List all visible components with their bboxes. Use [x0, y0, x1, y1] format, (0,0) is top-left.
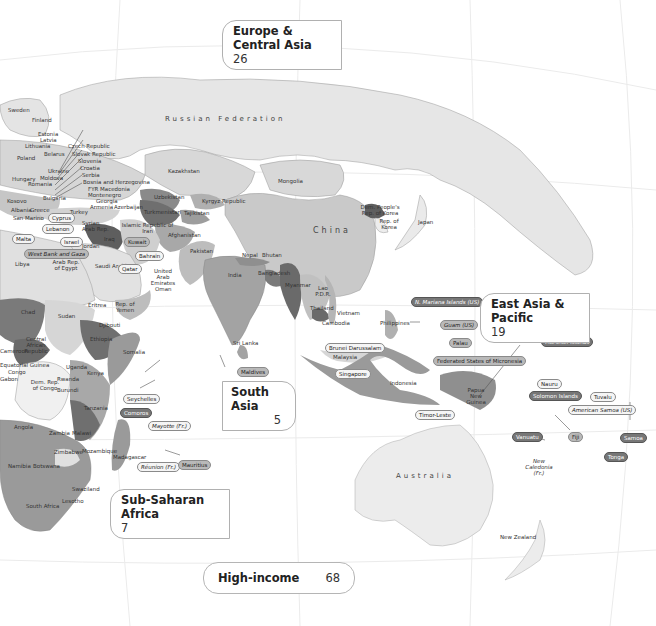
label-zimbabwe: Zimbabwe	[54, 449, 83, 455]
region-south-asia[interactable]: South Asia 5	[222, 381, 296, 431]
label-ukraine: Ukraine	[48, 168, 69, 174]
label-oman: Oman	[155, 286, 172, 292]
region-sub-saharan-africa[interactable]: Sub-Saharan Africa 7	[110, 489, 230, 539]
callout-kuwait[interactable]: Kuwait	[124, 237, 150, 247]
label-serbia: Serbia	[82, 172, 100, 178]
label-mongolia: Mongolia	[278, 178, 303, 184]
label-mozambique: Mozambique	[82, 448, 117, 454]
callout-americansamoa[interactable]: American Samoa (US)	[568, 405, 636, 415]
label-russia: Russian Federation	[165, 116, 285, 124]
callout-tuvalu[interactable]: Tuvalu	[590, 392, 616, 402]
callout-maldives[interactable]: Maldives	[237, 367, 269, 377]
callout-mayotte[interactable]: Mayotte (Fr.)	[148, 421, 191, 431]
label-newcaledonia: New Caledonia (Fr.)	[522, 458, 556, 476]
srilanka-shape	[237, 345, 248, 359]
label-pakistan: Pakistan	[190, 248, 213, 254]
callout-lebanon[interactable]: Lebanon	[42, 224, 74, 234]
callout-israel[interactable]: Israel	[60, 237, 83, 247]
callout-comoros[interactable]: Comoros	[120, 408, 152, 418]
region-name: Europe & Central Asia	[233, 24, 333, 52]
label-slovenia: Slovenia	[78, 158, 101, 164]
label-armenia: Armenia	[90, 204, 113, 210]
label-ethiopia: Ethiopia	[90, 336, 112, 342]
madagascar-shape	[112, 419, 131, 470]
label-lesotho: Lesotho	[62, 498, 84, 504]
label-thailand: Thailand	[310, 305, 334, 311]
label-slovak: Slovak Republic	[72, 151, 115, 157]
region-name: East Asia & Pacific	[491, 297, 581, 325]
label-bulgaria: Bulgaria	[43, 195, 66, 201]
label-romania: Romania	[28, 181, 52, 187]
label-congo: Congo	[8, 369, 26, 375]
label-india: India	[228, 272, 242, 278]
callout-tonga[interactable]: Tonga	[604, 452, 628, 462]
callout-timorleste[interactable]: Timor-Leste	[415, 410, 455, 420]
label-namibia: Namibia	[8, 463, 31, 469]
region-count: 26	[233, 52, 333, 66]
india-shape	[203, 256, 266, 345]
callout-micronesia[interactable]: Federated States of Micronesia	[433, 356, 526, 366]
high-income-pill[interactable]: High-income 68	[203, 562, 355, 594]
label-vietnam: Vietnam	[337, 310, 360, 316]
label-philippines: Philippines	[380, 320, 410, 326]
callout-solomon[interactable]: Solomon Islands	[529, 391, 582, 401]
label-angola: Angola	[14, 424, 33, 430]
callout-samoa[interactable]: Samoa	[620, 433, 647, 443]
label-belarus: Belarus	[44, 151, 65, 157]
label-poland: Poland	[17, 155, 35, 161]
label-somalia: Somalia	[123, 349, 145, 355]
label-czech: Czech Republic	[68, 143, 110, 149]
callout-qatar[interactable]: Qatar	[118, 264, 142, 274]
callout-seychelles[interactable]: Seychelles	[123, 394, 160, 404]
label-greece: Greece	[30, 207, 50, 213]
label-turkmenistan: Turkmenistan	[144, 209, 181, 215]
label-uzbekistan: Uzbekistan	[154, 194, 184, 200]
callout-reunion[interactable]: Réunion (Fr.)	[137, 462, 180, 472]
label-croatia: Croatia	[80, 165, 100, 171]
callout-westbank[interactable]: West Bank and Gaza	[24, 249, 89, 259]
label-djibouti: Djibouti	[99, 322, 120, 328]
label-yemen: Rep. of Yemen	[110, 301, 140, 313]
label-madagascar: Madagascar	[113, 454, 146, 460]
callout-nauru[interactable]: Nauru	[537, 379, 562, 389]
label-gabon: Gabon	[0, 376, 18, 382]
label-botswana: Botswana	[33, 463, 60, 469]
region-europe-central-asia[interactable]: Europe & Central Asia 26	[222, 20, 342, 70]
callout-vanuatu[interactable]: Vanuatu	[512, 432, 543, 442]
region-east-asia-pacific[interactable]: East Asia & Pacific 19	[480, 293, 590, 343]
label-eqguinea: Equatorial Guinea	[0, 362, 49, 368]
callout-palau[interactable]: Palau	[449, 338, 472, 348]
label-afghanistan: Afghanistan	[168, 232, 201, 238]
label-newzealand: New Zealand	[500, 534, 536, 540]
label-egypt: Arab Rep. of Egypt	[50, 259, 82, 271]
label-iraq: Iraq	[104, 236, 115, 242]
label-sweden: Sweden	[8, 107, 30, 113]
label-china: China	[313, 227, 351, 236]
label-drc: Dem. Rep. of Congo	[30, 379, 60, 391]
label-zambia: Zambia	[49, 430, 70, 436]
region-count: 5	[231, 413, 281, 427]
callout-malta[interactable]: Malta	[12, 234, 35, 244]
label-tajikistan: Tajikistan	[184, 210, 209, 216]
callout-bahrain[interactable]: Bahrain	[135, 251, 164, 261]
label-iran: Islamic Republic of Iran	[120, 222, 175, 234]
label-png: Papua New Guinea	[462, 387, 490, 405]
label-kenya: Kenya	[87, 370, 104, 376]
callout-cyprus[interactable]: Cyprus	[48, 213, 75, 223]
callout-brunei[interactable]: Brunei Darussalam	[325, 343, 385, 353]
region-count: 7	[121, 521, 221, 535]
label-sanmarino: San Marino	[13, 215, 44, 221]
callout-nmariana[interactable]: N. Mariana Islands (US)	[411, 297, 483, 307]
label-cambodia: Cambodia	[322, 320, 350, 326]
label-australia: Australia	[396, 473, 454, 481]
label-cameroon: Cameroon	[0, 348, 28, 354]
label-malaysia: Malaysia	[333, 354, 357, 360]
label-kyrgyz: Kyrgyz Republic	[202, 198, 246, 204]
callout-singapore[interactable]: Singapore	[335, 369, 371, 379]
label-sudan: Sudan	[58, 313, 75, 319]
label-burundi: Burundi	[57, 387, 79, 393]
high-income-count: 68	[325, 571, 340, 585]
callout-mauritius[interactable]: Mauritius	[178, 460, 211, 470]
callout-fiji[interactable]: Fiji	[568, 432, 583, 442]
callout-guam[interactable]: Guam (US)	[440, 320, 478, 330]
